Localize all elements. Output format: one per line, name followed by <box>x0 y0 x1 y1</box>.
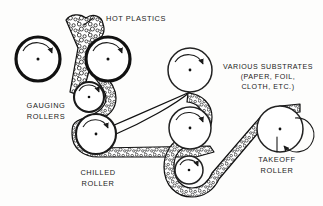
roller-takeoff-roller <box>257 106 314 152</box>
process-diagram: HOT PLASTICS GAUGING ROLLERS CHILLED ROL… <box>0 0 323 206</box>
label-chilled-roller-line1: CHILLED <box>80 168 115 177</box>
label-hot-plastics: HOT PLASTICS <box>106 14 166 23</box>
roller-gauging-roller-upper <box>74 82 104 112</box>
roller-chilled-roller <box>76 114 116 154</box>
label-various-substrates-line3: CLOTH, ETC.) <box>241 83 294 91</box>
label-takeoff-roller-line1: TAKEOFF <box>258 155 295 164</box>
label-chilled-roller-line2: ROLLER <box>82 179 115 188</box>
roller-nip-roller-right <box>86 37 130 81</box>
roller-nip-roller-left <box>16 37 60 81</box>
roller-idler-roller-lower <box>175 156 203 184</box>
label-gauging-rollers-line2: ROLLERS <box>27 112 65 121</box>
diagram-canvas: HOT PLASTICS GAUGING ROLLERS CHILLED ROL… <box>0 0 323 206</box>
label-gauging-rollers-line1: GAUGING <box>27 101 66 110</box>
roller-idler-roller-middle <box>169 107 211 149</box>
label-various-substrates-line1: VARIOUS SUBSTRATES <box>223 63 313 71</box>
roller-idler-roller-top <box>168 48 212 92</box>
label-various-substrates-line2: (PAPER, FOIL, <box>241 73 296 81</box>
label-takeoff-roller-line2: ROLLER <box>261 166 294 175</box>
